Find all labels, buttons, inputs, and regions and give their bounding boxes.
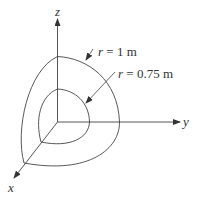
inner-arc-zy — [58, 89, 90, 122]
inner-leader-arrow — [86, 72, 115, 103]
inner-arc-yx — [41, 122, 90, 144]
x-axis — [14, 122, 58, 178]
inner-radius-label: r = 0.75 m — [118, 66, 173, 81]
outer-radius-value: = 1 m — [103, 44, 137, 59]
outer-radius-label: r = 1 m — [98, 44, 137, 59]
z-axis-label: z — [54, 4, 60, 19]
inner-surface — [39, 89, 90, 144]
y-axis-label: y — [181, 114, 189, 129]
spherical-shell-diagram: z y x r = 1 m r = 0.75 m — [0, 0, 202, 204]
x-axis-label: x — [7, 180, 14, 195]
outer-arc-xz — [21, 57, 57, 164]
outer-leader-arrow — [86, 49, 93, 60]
axes — [14, 19, 180, 178]
inner-radius-value: = 0.75 m — [123, 66, 173, 81]
